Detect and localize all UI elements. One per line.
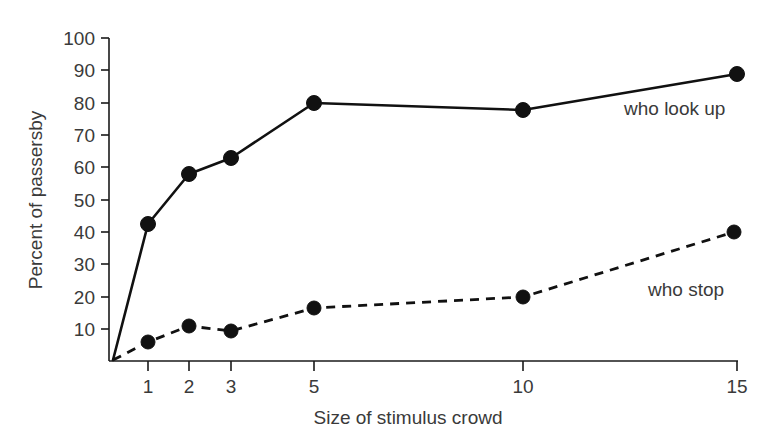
series-markers-who-look-up [141, 67, 745, 232]
x-axis-title: Size of stimulus crowd [313, 407, 502, 428]
y-tick-label-100: 100 [63, 28, 95, 49]
series-label-who-look-up: who look up [623, 98, 725, 119]
data-point [224, 151, 239, 166]
y-tick-marks [101, 38, 109, 329]
x-tick-labels: 1 2 3 5 10 15 [143, 376, 748, 397]
series-line-who-stop [113, 232, 734, 360]
data-point [516, 290, 530, 304]
y-tick-label-80: 80 [74, 93, 95, 114]
data-point [141, 335, 155, 349]
x-tick-marks [148, 361, 737, 371]
y-tick-label-90: 90 [74, 60, 95, 81]
x-tick-label-10: 10 [512, 376, 533, 397]
data-point [307, 301, 321, 315]
y-tick-label-20: 20 [74, 287, 95, 308]
data-point [307, 96, 322, 111]
y-axis-title: Percent of passersby [25, 110, 46, 289]
x-tick-label-5: 5 [309, 376, 320, 397]
series-label-who-stop: who stop [647, 279, 724, 300]
y-tick-label-70: 70 [74, 125, 95, 146]
data-point [224, 324, 238, 338]
data-point [730, 67, 745, 82]
data-point [141, 217, 156, 232]
y-tick-label-60: 60 [74, 157, 95, 178]
data-point [516, 103, 531, 118]
y-tick-label-30: 30 [74, 254, 95, 275]
x-tick-label-15: 15 [726, 376, 747, 397]
data-point [182, 319, 196, 333]
chart-figure: 100 90 80 70 60 50 40 30 20 10 1 2 3 5 1… [0, 0, 778, 441]
y-tick-label-10: 10 [74, 319, 95, 340]
line-chart: 100 90 80 70 60 50 40 30 20 10 1 2 3 5 1… [0, 0, 778, 441]
x-tick-label-1: 1 [143, 376, 154, 397]
x-tick-label-3: 3 [226, 376, 237, 397]
data-point [727, 225, 741, 239]
x-tick-label-2: 2 [184, 376, 195, 397]
data-point [182, 167, 197, 182]
y-tick-labels: 100 90 80 70 60 50 40 30 20 10 [63, 28, 95, 340]
y-tick-label-40: 40 [74, 222, 95, 243]
y-tick-label-50: 50 [74, 190, 95, 211]
